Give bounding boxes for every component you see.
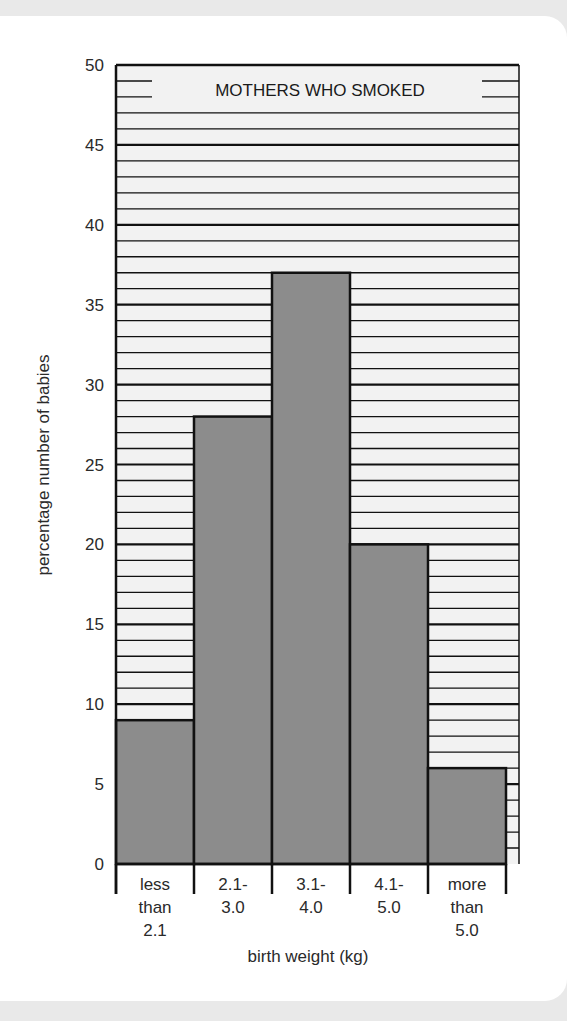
x-category-label: 2.1	[143, 921, 167, 940]
y-tick-label: 5	[95, 775, 104, 794]
x-axis-categories: lessthan2.12.1-3.03.1-4.04.1-5.0morethan…	[138, 875, 486, 940]
bar	[116, 720, 194, 864]
x-category-label: 2.1-	[218, 875, 247, 894]
y-tick-label: 0	[95, 855, 104, 874]
x-category-label: less	[140, 875, 170, 894]
chart-title: MOTHERS WHO SMOKED	[215, 81, 425, 100]
x-axis-title: birth weight (kg)	[248, 947, 369, 966]
y-tick-label: 30	[85, 376, 104, 395]
histogram-chart: 05101520253035404550 lessthan2.12.1-3.03…	[0, 0, 567, 1021]
x-category-label: than	[138, 898, 171, 917]
x-category-label: than	[450, 898, 483, 917]
x-category-label: 5.0	[377, 898, 401, 917]
y-axis-ticks: 05101520253035404550	[85, 56, 104, 874]
x-category-label: 4.0	[299, 898, 323, 917]
x-category-label: 4.1-	[374, 875, 403, 894]
y-tick-label: 20	[85, 535, 104, 554]
bar	[428, 768, 506, 864]
y-tick-label: 10	[85, 695, 104, 714]
x-category-label: 3.1-	[296, 875, 325, 894]
y-tick-label: 15	[85, 615, 104, 634]
x-category-label: 3.0	[221, 898, 245, 917]
bar	[272, 273, 350, 864]
y-tick-label: 45	[85, 136, 104, 155]
bar	[194, 417, 272, 864]
y-tick-label: 35	[85, 296, 104, 315]
x-category-label: more	[448, 875, 487, 894]
y-tick-label: 40	[85, 216, 104, 235]
y-tick-label: 25	[85, 456, 104, 475]
y-axis-title: percentage number of babies	[34, 354, 53, 575]
bar	[350, 544, 428, 864]
y-tick-label: 50	[85, 56, 104, 75]
x-category-label: 5.0	[455, 921, 479, 940]
